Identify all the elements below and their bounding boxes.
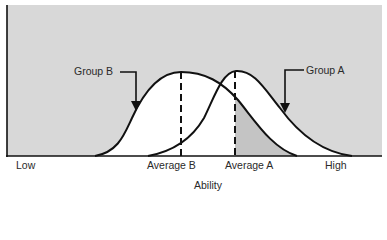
average-a-label: Average A [225,160,273,171]
group-b-label: Group B [74,66,113,77]
axis-title: Ability [194,180,222,191]
axis-high-label: High [325,160,347,171]
group-a-label: Group A [306,65,345,76]
axis-low-label: Low [16,160,35,171]
average-b-label: Average B [147,160,196,171]
